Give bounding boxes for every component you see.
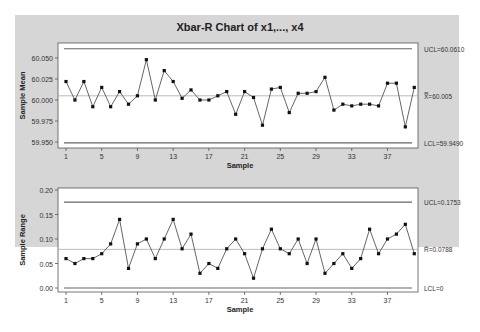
data-point	[359, 103, 362, 106]
data-point	[395, 82, 398, 85]
data-point	[350, 267, 353, 270]
data-point	[172, 80, 175, 83]
y-tick-label: 60.050	[32, 55, 54, 62]
data-point	[413, 86, 416, 89]
x-tick-label: 33	[348, 297, 356, 304]
data-point	[136, 94, 139, 97]
x-tick-label: 13	[169, 153, 177, 160]
data-point	[118, 90, 121, 93]
data-point	[127, 267, 130, 270]
data-point	[350, 104, 353, 107]
data-point	[243, 252, 246, 255]
data-point	[100, 252, 103, 255]
data-point	[279, 247, 282, 250]
data-point	[323, 272, 326, 275]
data-point	[341, 252, 344, 255]
data-point	[64, 80, 67, 83]
data-point	[297, 92, 300, 95]
y-axis-label: Sample Mean	[18, 71, 27, 119]
data-point	[225, 247, 228, 250]
data-point	[332, 262, 335, 265]
data-point	[288, 252, 291, 255]
data-point	[73, 98, 76, 101]
data-point	[216, 94, 219, 97]
x-tick-label: 25	[276, 297, 284, 304]
data-point	[91, 257, 94, 260]
y-tick-label: 0.00	[39, 285, 53, 292]
x-tick-label: 37	[384, 297, 392, 304]
y-axis-label: Sample Range	[18, 214, 27, 266]
y-tick-label: 0.15	[39, 212, 53, 219]
data-point	[64, 257, 67, 260]
data-point	[386, 82, 389, 85]
data-point	[163, 69, 166, 72]
data-point	[341, 103, 344, 106]
data-point	[109, 105, 112, 108]
data-point	[73, 262, 76, 265]
x-axis-label: Sample	[227, 161, 254, 170]
x-tick-label: 25	[276, 153, 284, 160]
y-tick-label: 59.950	[32, 139, 54, 146]
data-point	[323, 76, 326, 79]
y-tick-label: 59.975	[32, 118, 54, 125]
data-point	[306, 262, 309, 265]
range-chart: UCL=0.1753R̄=0.0788LCL=00.200.150.100.05…	[18, 187, 461, 314]
y-tick-label: 60.025	[32, 76, 54, 83]
data-point	[368, 228, 371, 231]
data-point	[82, 80, 85, 83]
data-point	[279, 86, 282, 89]
x-tick-label: 9	[135, 297, 139, 304]
ucl-label: UCL=60.0610	[424, 46, 465, 53]
data-point	[368, 103, 371, 106]
center-label: X̿=60.005	[424, 92, 452, 100]
data-point	[154, 98, 157, 101]
data-point	[314, 237, 317, 240]
data-point	[252, 277, 255, 280]
x-tick-label: 5	[100, 297, 104, 304]
data-point	[261, 124, 264, 127]
data-point	[145, 237, 148, 240]
x-tick-label: 29	[312, 297, 320, 304]
x-tick-label: 21	[241, 153, 249, 160]
y-tick-label: 60.000	[32, 97, 54, 104]
chart-title: Xbar-R Chart of x1,..., x4	[176, 21, 304, 33]
data-point	[136, 242, 139, 245]
data-point	[359, 257, 362, 260]
data-point	[261, 247, 264, 250]
y-tick-label: 0.10	[39, 236, 53, 243]
x-tick-label: 21	[241, 297, 249, 304]
x-tick-label: 29	[312, 153, 320, 160]
data-point	[234, 237, 237, 240]
x-tick-label: 17	[205, 153, 213, 160]
data-point	[234, 113, 237, 116]
data-point	[100, 86, 103, 89]
data-point	[207, 98, 210, 101]
ucl-label: UCL=0.1753	[424, 199, 461, 206]
data-point	[118, 218, 121, 221]
lcl-label: LCL=0	[424, 285, 444, 292]
data-point	[163, 237, 166, 240]
data-point	[404, 223, 407, 226]
data-point	[180, 247, 183, 250]
data-point	[154, 257, 157, 260]
data-point	[377, 252, 380, 255]
center-label: R̄=0.0788	[424, 246, 453, 253]
data-point	[109, 242, 112, 245]
x-axis-label: Sample	[227, 305, 254, 314]
data-point	[127, 103, 130, 106]
y-tick-label: 0.20	[39, 187, 53, 194]
data-point	[270, 87, 273, 90]
data-point	[189, 233, 192, 236]
data-point	[180, 97, 183, 100]
data-point	[216, 267, 219, 270]
data-point	[82, 257, 85, 260]
data-point	[198, 272, 201, 275]
x-tick-label: 13	[169, 297, 177, 304]
data-point	[314, 90, 317, 93]
data-point	[377, 104, 380, 107]
data-point	[252, 96, 255, 99]
xbar-r-chart: Xbar-R Chart of x1,..., x4 UCL=60.0610X̿…	[0, 0, 480, 332]
data-point	[288, 111, 291, 114]
x-tick-label: 1	[64, 297, 68, 304]
data-point	[413, 252, 416, 255]
